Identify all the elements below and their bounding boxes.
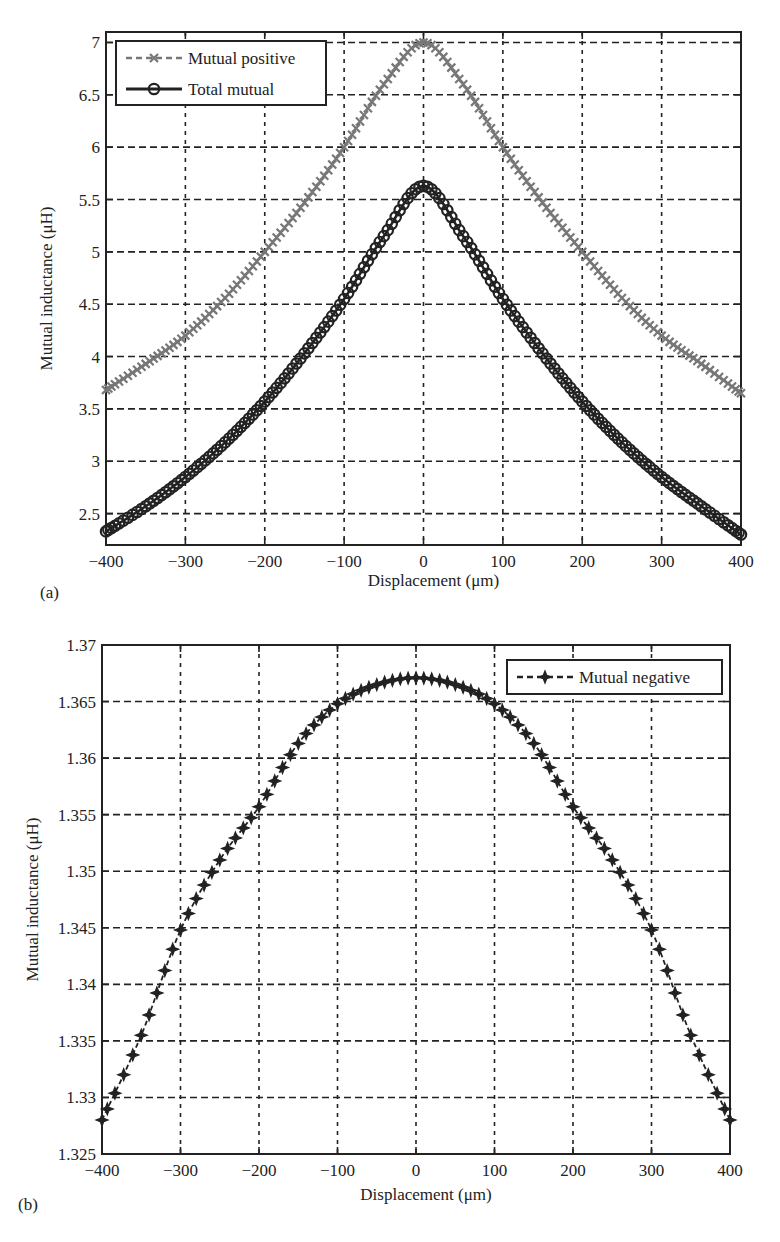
x-tick-label: 400 — [717, 1161, 743, 1180]
chart-b: −400−300−200−10001002003004001.3251.331.… — [18, 636, 743, 1214]
y-tick-label: 1.335 — [58, 1032, 96, 1051]
star-marker — [151, 987, 163, 999]
x-axis-title: Displacement (μm) — [368, 571, 499, 590]
star-marker — [606, 854, 618, 866]
star-marker — [159, 965, 171, 977]
star-marker — [598, 842, 610, 854]
star-marker — [661, 965, 673, 977]
y-tick-label: 1.34 — [66, 975, 96, 994]
x-tick-label: 200 — [560, 1161, 586, 1180]
star-marker — [559, 788, 571, 800]
star-marker — [135, 1029, 147, 1041]
y-tick-label: 1.325 — [58, 1145, 96, 1164]
x-tick-label: 100 — [490, 552, 516, 571]
star-marker — [567, 801, 579, 813]
panel-label: (b) — [18, 1195, 38, 1214]
y-tick-label: 7 — [92, 33, 101, 52]
y-tick-label: 1.355 — [58, 806, 96, 825]
star-marker — [693, 1049, 705, 1061]
panel-label: (a) — [40, 583, 59, 602]
x-tick-label: −100 — [320, 1161, 355, 1180]
legend-label: Mutual negative — [579, 668, 690, 687]
star-marker — [685, 1029, 697, 1041]
x-tick-label: 300 — [649, 552, 675, 571]
y-tick-label: 4 — [92, 348, 101, 367]
star-marker — [719, 1103, 731, 1115]
star-marker — [222, 842, 234, 854]
x-tick-label: −200 — [247, 552, 282, 571]
star-marker — [646, 924, 658, 936]
figure-canvas: −400−300−200−10001002003004002.533.544.5… — [0, 0, 780, 1242]
x-tick-label: −300 — [163, 1161, 198, 1180]
y-tick-label: 1.365 — [58, 693, 96, 712]
y-tick-label: 1.345 — [58, 919, 96, 938]
y-tick-label: 5.5 — [79, 191, 100, 210]
y-axis: 2.533.544.555.566.57 — [79, 33, 741, 523]
legend: Mutual negative — [507, 660, 722, 694]
y-tick-label: 1.37 — [66, 636, 96, 655]
star-marker — [214, 854, 226, 866]
y-tick-label: 2.5 — [79, 505, 100, 524]
y-axis-title: Mutual inductance (μH) — [37, 207, 56, 371]
star-marker — [175, 924, 187, 936]
star-marker — [261, 788, 273, 800]
y-tick-label: 1.36 — [66, 749, 96, 768]
x-axis: −400−300−200−1000100200300400 — [88, 32, 753, 571]
star-marker — [724, 1114, 736, 1126]
x-axis-title: Displacement (μm) — [360, 1185, 491, 1204]
star-marker — [379, 676, 391, 688]
y-axis: 1.3251.331.3351.341.3451.351.3551.361.36… — [58, 636, 730, 1164]
star-marker — [630, 893, 642, 905]
y-tick-label: 1.33 — [66, 1088, 96, 1107]
star-marker — [638, 908, 650, 920]
star-marker — [118, 1069, 130, 1081]
x-tick-label: 400 — [728, 552, 754, 571]
star-marker — [653, 943, 665, 955]
y-tick-label: 6.5 — [79, 86, 100, 105]
y-tick-label: 6 — [92, 138, 101, 157]
star-marker — [702, 1069, 714, 1081]
star-marker — [614, 866, 626, 878]
y-axis-title: Mutual inductance (μH) — [23, 818, 42, 982]
x-tick-label: −300 — [168, 552, 203, 571]
star-marker — [277, 762, 289, 774]
legend-label: Mutual positive — [188, 49, 295, 68]
y-tick-label: 1.35 — [66, 862, 96, 881]
star-marker — [434, 674, 446, 686]
x-tick-label: 100 — [482, 1161, 508, 1180]
star-marker — [544, 762, 556, 774]
star-marker — [127, 1049, 139, 1061]
x-tick-label: 200 — [570, 552, 596, 571]
star-marker — [269, 775, 281, 787]
legend-label: Total mutual — [188, 80, 274, 99]
x-tick-label: 300 — [639, 1161, 665, 1180]
star-marker — [198, 879, 210, 891]
star-marker — [101, 1103, 113, 1115]
y-tick-label: 3 — [92, 452, 101, 471]
star-marker — [206, 866, 218, 878]
star-marker — [441, 676, 453, 688]
star-marker — [677, 1009, 689, 1021]
x-tick-label: 0 — [419, 552, 428, 571]
x-tick-label: −200 — [241, 1161, 276, 1180]
star-marker — [96, 1114, 108, 1126]
x-tick-label: −100 — [327, 552, 362, 571]
x-tick-label: 0 — [412, 1161, 421, 1180]
star-marker — [622, 879, 634, 891]
y-tick-label: 4.5 — [79, 295, 100, 314]
legend: Mutual positiveTotal mutual — [116, 41, 326, 105]
chart-a: −400−300−200−10001002003004002.533.544.5… — [37, 32, 754, 602]
y-tick-label: 3.5 — [79, 400, 100, 419]
star-marker — [669, 987, 681, 999]
star-marker — [190, 893, 202, 905]
star-marker — [167, 943, 179, 955]
star-marker — [182, 908, 194, 920]
x-tick-label: −400 — [88, 552, 123, 571]
star-marker — [143, 1009, 155, 1021]
star-marker — [253, 801, 265, 813]
star-marker — [551, 775, 563, 787]
y-tick-label: 5 — [92, 243, 101, 262]
